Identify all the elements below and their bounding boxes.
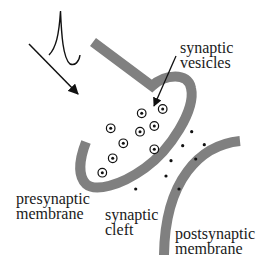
vesicles <box>98 105 167 177</box>
incoming-arrow-icon <box>29 44 78 94</box>
synapse-diagram: synaptic vesicles presynaptic membrane s… <box>0 0 270 275</box>
label-line: synaptic <box>105 207 158 222</box>
label-line: cleft <box>105 222 158 237</box>
vesicle-icon <box>137 109 146 118</box>
label-line: postsynaptic <box>175 226 255 241</box>
vesicle-icon <box>158 105 167 114</box>
neurotransmitter-dot <box>181 144 184 147</box>
label-line: membrane <box>16 206 90 221</box>
action-potential-spike-icon <box>49 11 80 65</box>
label-line: synaptic <box>180 40 233 55</box>
presynaptic-membrane-shape <box>80 42 191 187</box>
neurotransmitter-dot <box>169 159 172 162</box>
neurotransmitter-dot <box>177 187 180 190</box>
neurotransmitter-dot <box>190 130 193 133</box>
vesicle-icon <box>119 139 128 148</box>
vesicle-icon <box>108 154 117 163</box>
vesicle-icon <box>98 168 107 177</box>
label-line: presynaptic <box>16 191 90 206</box>
neurotransmitter-dot <box>203 143 206 146</box>
label-line: vesicles <box>180 55 233 70</box>
vesicle-icon <box>106 124 115 133</box>
label-line: membrane <box>175 241 255 256</box>
label-postsynaptic-membrane: postsynaptic membrane <box>175 226 255 256</box>
vesicle-icon <box>150 122 159 131</box>
neurotransmitter-dot <box>164 174 167 177</box>
label-synaptic-vesicles: synaptic vesicles <box>180 40 233 70</box>
label-synaptic-cleft: synaptic cleft <box>105 207 158 237</box>
label-presynaptic-membrane: presynaptic membrane <box>16 191 90 221</box>
vesicle-icon <box>136 127 145 136</box>
vesicle-icon <box>150 145 159 154</box>
neurotransmitter-dot <box>194 157 197 160</box>
neurotransmitter-dot <box>134 187 137 190</box>
